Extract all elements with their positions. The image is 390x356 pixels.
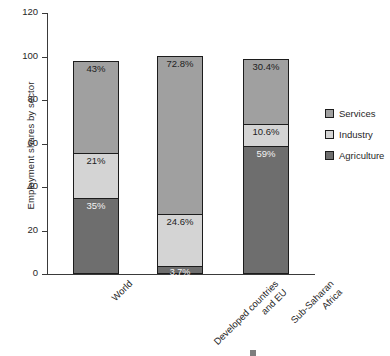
caption-marker-icon [250,350,256,356]
x-axis-tick-labels: WorldDeveloped countries and EUSub-Sahar… [47,276,315,356]
y-tick: 60 [42,144,47,145]
bar-segment-services: 43% [73,61,119,155]
y-axis-line [47,13,48,274]
bar-segment-industry: 21% [73,153,119,199]
legend-swatch-icon [325,130,334,139]
bar-segment-services: 72.8% [157,56,203,214]
y-tick: 120 [42,13,47,14]
bar-segment-agriculture: 35% [73,198,119,274]
x-tick-label: Sub-Saharan Africa [288,278,344,334]
bottom-caption-sliver [250,350,272,356]
stacked-bar: 30.4%10.6%59% [243,60,289,274]
plot-area: 020406080100120 43%21%35%72.8%24.6%3.7%3… [47,13,315,274]
y-tick: 100 [42,57,47,58]
y-tick-label: 0 [33,267,38,278]
y-tick-label: 60 [27,137,38,148]
legend-label: Industry [339,129,373,140]
bar-segment-value-label: 72.8% [158,58,202,69]
chart-legend: ServicesIndustryAgriculture [325,105,389,168]
legend-swatch-icon [325,109,334,118]
bar-segment-services: 30.4% [243,59,289,125]
x-tick-label: World [109,278,135,304]
bar-segment-value-label: 24.6% [158,216,202,227]
stacked-bar: 43%21%35% [73,62,119,274]
bar-segment-value-label: 35% [74,200,118,211]
y-tick-label: 80 [27,93,38,104]
y-tick: 20 [42,231,47,232]
y-tick: 80 [42,100,47,101]
y-tick-label: 40 [27,180,38,191]
y-tick: 40 [42,187,47,188]
bar-segment-value-label: 30.4% [244,61,288,72]
legend-label: Services [339,108,375,119]
bar-segment-industry: 10.6% [243,124,289,147]
bar-segment-industry: 24.6% [157,214,203,268]
x-tick-label: Developed countries and EU [211,278,289,356]
y-tick-label: 120 [22,6,38,17]
bar-segment-value-label: 59% [244,148,288,159]
legend-item: Services [325,105,389,122]
y-tick-label: 100 [22,50,38,61]
y-tick: 0 [42,274,47,275]
bar-segment-agriculture: 59% [243,146,289,274]
legend-item: Industry [325,126,389,143]
bar-segment-value-label: 21% [74,155,118,166]
bar-segment-agriculture: 3.7% [157,266,203,274]
legend-item: Agriculture [325,147,389,164]
legend-swatch-icon [325,151,334,160]
bar-segment-value-label: 43% [74,63,118,74]
bar-segment-value-label: 10.6% [244,126,288,137]
y-tick-label: 20 [27,224,38,235]
legend-label: Agriculture [339,150,384,161]
stacked-bar-chart: Employment shares by sector 020406080100… [0,0,390,356]
stacked-bar: 72.8%24.6%3.7% [157,57,203,274]
